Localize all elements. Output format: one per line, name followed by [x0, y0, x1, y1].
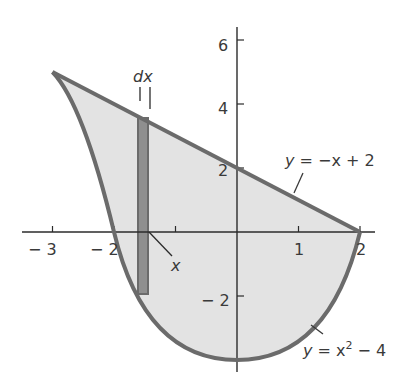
y-tick-label: − 2: [201, 291, 230, 310]
x-tick-label: − 2: [90, 240, 119, 259]
line-eq-leader: [294, 173, 303, 193]
x-tick-label: − 3: [28, 240, 57, 259]
x-tick-label: 1: [294, 240, 304, 259]
y-tick-label: 4: [218, 99, 228, 118]
y-tick-label: 2: [218, 161, 228, 180]
y-tick-label: 6: [218, 36, 228, 55]
x-tick-label: 2: [356, 240, 366, 259]
line-equation-label: y = −x + 2: [284, 151, 375, 170]
area-between-curves-diagram: dx x − 3 − 2 1 2 6 4 2 − 2 y = −x + 2 y …: [0, 0, 420, 385]
dx-markers: [140, 87, 150, 109]
shaded-region: [53, 72, 361, 360]
dx-label: dx: [133, 67, 153, 86]
parabola-equation-label: y = x2 − 4: [302, 339, 386, 360]
x-label: x: [170, 256, 181, 275]
representative-rectangle: [138, 118, 148, 294]
